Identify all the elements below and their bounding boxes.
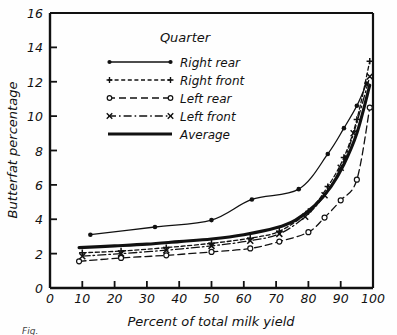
x-tick-label: 50 bbox=[204, 291, 220, 306]
figure-container: 0246810121416 0102030405060708090100 Per… bbox=[0, 0, 397, 335]
marker-dot bbox=[250, 197, 255, 202]
x-tick-label: 70 bbox=[268, 291, 284, 306]
marker-circle bbox=[367, 105, 372, 110]
y-tick-group: 0246810121416 bbox=[27, 6, 57, 296]
y-tick-label: 14 bbox=[27, 40, 43, 55]
series-right-front bbox=[79, 58, 373, 256]
marker-circle bbox=[354, 177, 359, 182]
marker-circle bbox=[209, 249, 214, 254]
x-tick-label: 60 bbox=[236, 291, 252, 306]
marker-circle bbox=[306, 230, 311, 235]
marker-cross bbox=[367, 74, 373, 80]
marker-dot bbox=[355, 104, 360, 109]
x-tick-label: 20 bbox=[107, 291, 123, 306]
marker-dot bbox=[296, 187, 301, 192]
y-tick-label: 12 bbox=[27, 75, 43, 90]
legend-item-average[interactable]: Average bbox=[108, 128, 230, 142]
marker-circle bbox=[77, 259, 82, 264]
legend-item-right-front[interactable]: Right front bbox=[107, 74, 246, 88]
legend-item-label: Right rear bbox=[180, 56, 241, 70]
series-line bbox=[82, 61, 369, 253]
x-tick-label: 10 bbox=[74, 291, 90, 306]
y-axis-title: Butterfat percentage bbox=[5, 82, 20, 219]
series-line bbox=[90, 83, 366, 234]
marker-plus bbox=[168, 77, 174, 83]
legend-title: Quarter bbox=[160, 30, 212, 45]
x-tick-label: 100 bbox=[361, 291, 385, 306]
marker-circle bbox=[338, 198, 343, 203]
marker-dot bbox=[153, 225, 158, 230]
marker-circle bbox=[168, 96, 173, 101]
legend-item-left-front[interactable]: Left front bbox=[107, 110, 237, 124]
marker-dot bbox=[342, 126, 347, 131]
marker-circle bbox=[322, 215, 327, 220]
y-tick-label: 16 bbox=[27, 6, 43, 21]
series-layer bbox=[77, 58, 373, 264]
y-tick-label: 6 bbox=[35, 178, 43, 193]
x-tick-label: 90 bbox=[333, 291, 349, 306]
x-tick-label: 80 bbox=[300, 291, 316, 306]
marker-dot bbox=[168, 60, 172, 64]
marker-circle bbox=[248, 246, 253, 251]
x-axis-title: Percent of total milk yield bbox=[127, 314, 295, 329]
y-tick-label: 8 bbox=[35, 144, 43, 159]
legend-rows: Right rearRight frontLeft rearLeft front… bbox=[107, 56, 246, 142]
x-tick-label: 0 bbox=[46, 291, 54, 306]
marker-dot bbox=[88, 232, 93, 237]
x-tick-label: 40 bbox=[171, 291, 187, 306]
y-tick-label: 10 bbox=[27, 109, 43, 124]
figure-caption: Fig. bbox=[22, 326, 38, 335]
legend-item-left-rear[interactable]: Left rear bbox=[107, 92, 232, 106]
legend-item-right-rear[interactable]: Right rear bbox=[107, 56, 241, 70]
x-tick-group: 0102030405060708090100 bbox=[46, 281, 385, 306]
marker-dot bbox=[325, 152, 330, 157]
y-tick-label: 4 bbox=[35, 212, 43, 227]
marker-circle bbox=[164, 253, 169, 258]
legend: Quarter Right rearRight frontLeft rearLe… bbox=[107, 30, 246, 142]
legend-item-label: Right front bbox=[180, 74, 246, 88]
x-tick-label: 30 bbox=[139, 291, 155, 306]
legend-item-label: Average bbox=[179, 128, 230, 142]
y-tick-label: 0 bbox=[35, 281, 43, 296]
legend-item-label: Left front bbox=[180, 110, 237, 124]
marker-circle bbox=[277, 239, 282, 244]
marker-plus bbox=[107, 77, 113, 83]
legend-item-label: Left rear bbox=[180, 92, 232, 106]
marker-dot bbox=[107, 60, 111, 64]
marker-circle bbox=[107, 96, 112, 101]
marker-dot bbox=[209, 218, 214, 223]
y-tick-label: 2 bbox=[35, 247, 43, 262]
marker-cross bbox=[168, 113, 174, 119]
butterfat-line-chart: 0246810121416 0102030405060708090100 Per… bbox=[0, 0, 397, 335]
